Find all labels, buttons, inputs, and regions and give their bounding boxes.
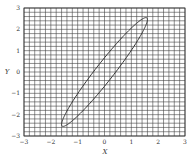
x-tick-label: 1: [129, 138, 133, 145]
grid-lines: [24, 8, 185, 136]
y-axis-ticks: −3−2−10123: [11, 4, 20, 139]
y-tick-label: −3: [11, 132, 20, 139]
x-tick-label: −1: [73, 138, 82, 145]
chart: −3−2−10123 −3−2−10123 X Y: [0, 0, 189, 158]
y-axis-label: Y: [5, 68, 11, 76]
y-tick-label: 0: [16, 68, 20, 75]
x-tick-label: −2: [46, 138, 55, 145]
x-tick-label: 3: [183, 138, 187, 145]
y-tick-label: −2: [11, 111, 20, 118]
x-tick-label: −3: [20, 138, 29, 145]
x-tick-label: 2: [156, 138, 160, 145]
y-tick-label: 2: [16, 25, 20, 32]
y-tick-label: −1: [11, 89, 20, 96]
x-axis-ticks: −3−2−10123: [20, 138, 188, 145]
x-tick-label: 0: [103, 138, 107, 145]
y-tick-label: 3: [16, 4, 20, 11]
y-tick-label: 1: [16, 47, 20, 54]
x-axis-label: X: [102, 148, 109, 156]
